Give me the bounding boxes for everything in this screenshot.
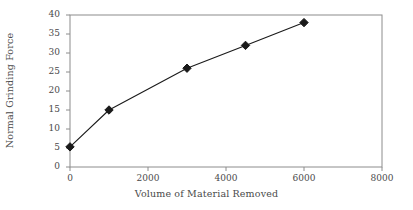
y-tick-label: 20	[38, 85, 60, 95]
y-tick-label: 0	[38, 161, 60, 171]
y-tick-label: 15	[38, 104, 60, 114]
x-tick-label: 6000	[284, 173, 324, 183]
plot-border	[70, 15, 382, 167]
y-tick-label: 30	[38, 47, 60, 57]
x-tick-label: 0	[50, 173, 90, 183]
y-tick-label: 5	[38, 142, 60, 152]
y-tick-label: 25	[38, 66, 60, 76]
data-point-marker	[183, 64, 191, 72]
chart-figure: 0510152025303540 02000400060008000 Norma…	[0, 0, 413, 210]
data-series-line	[70, 23, 304, 147]
x-axis-ticks	[70, 167, 382, 171]
data-point-marker	[241, 41, 249, 49]
data-series-markers	[66, 18, 308, 151]
y-tick-label: 40	[38, 9, 60, 19]
x-tick-label: 8000	[362, 173, 402, 183]
y-axis-title: Normal Grinding Force	[5, 32, 16, 147]
y-tick-label: 10	[38, 123, 60, 133]
x-tick-label: 2000	[128, 173, 168, 183]
x-axis-title: Volume of Material Removed	[0, 188, 413, 199]
x-tick-label: 4000	[206, 173, 246, 183]
y-tick-label: 35	[38, 28, 60, 38]
plot-frame	[70, 15, 382, 167]
data-point-marker	[300, 18, 308, 26]
y-axis-title-container: Normal Grinding Force	[0, 0, 20, 180]
